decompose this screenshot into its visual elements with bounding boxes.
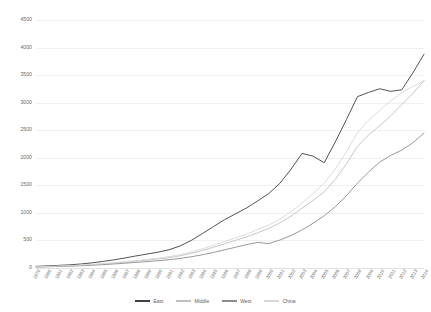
x-axis-tick-label: 2002 [288,269,297,280]
x-axis-tick-label: 2013 [410,269,419,280]
legend-item-east[interactable]: East [135,299,163,304]
series-line-west [36,133,424,267]
series-line-middle [36,81,424,267]
line-chart: 050010001500200025003000350040004500 197… [0,0,431,312]
legend-label: West [240,299,251,304]
x-axis-tick-label: 1992 [177,269,186,280]
legend-label: China [282,299,295,304]
x-axis-tick-label: 1984 [88,269,97,280]
x-axis-tick-label: 1982 [66,269,75,280]
y-axis-tick-label: 3500 [20,73,32,78]
legend-label: East [153,299,163,304]
x-axis-tick-label: 1989 [144,269,153,280]
series-line-east [36,54,424,266]
x-axis-tick-label: 2011 [388,269,397,280]
legend-item-china[interactable]: China [264,299,295,304]
legend-swatch-icon [135,300,150,301]
x-axis-tick-label: 1990 [155,269,164,280]
x-axis-tick-label: 1981 [55,269,64,280]
y-axis-tick-label: 2000 [20,155,32,160]
x-axis-tick-label: 1998 [244,269,253,280]
legend-label: Middle [194,299,209,304]
y-axis-tick-label: 500 [23,238,32,243]
legend-swatch-icon [176,300,191,301]
plot-area [36,20,424,268]
x-axis-tick-label: 2000 [266,269,275,280]
x-axis-tick-label: 1980 [44,269,53,280]
x-axis: 1979198019811982198319841985198619871988… [36,269,424,295]
x-axis-tick-label: 1995 [210,269,219,280]
y-axis-tick-label: 0 [29,265,32,270]
y-axis-tick-label: 4500 [20,17,32,22]
x-axis-tick-label: 1997 [232,269,241,280]
y-axis-tick-label: 1000 [20,210,32,215]
x-axis-tick-label: 2012 [399,269,408,280]
x-axis-tick-label: 2004 [310,269,319,280]
x-axis-tick-label: 2006 [332,269,341,280]
x-axis-tick-label: 1996 [221,269,230,280]
chart-legend: EastMiddleWestChina [0,294,431,308]
x-axis-tick-label: 1999 [255,269,264,280]
y-axis: 050010001500200025003000350040004500 [0,20,32,268]
y-axis-tick-label: 4000 [20,45,32,50]
legend-item-middle[interactable]: Middle [176,299,209,304]
legend-item-west[interactable]: West [222,299,251,304]
x-axis-tick-label: 1983 [77,269,86,280]
x-axis-tick-label: 2001 [277,269,286,280]
y-axis-tick-label: 1500 [20,183,32,188]
x-axis-tick-label: 1979 [33,269,42,280]
y-axis-tick-label: 2500 [20,128,32,133]
series-line-china [36,81,424,267]
legend-swatch-icon [222,300,237,301]
x-axis-tick-label: 2014 [421,269,430,280]
x-axis-tick-label: 1985 [99,269,108,280]
x-axis-tick-label: 1987 [122,269,131,280]
x-axis-tick-label: 2010 [377,269,386,280]
x-axis-tick-label: 2009 [365,269,374,280]
x-axis-tick-label: 1986 [110,269,119,280]
x-axis-tick-label: 1991 [166,269,175,280]
x-axis-tick-label: 2008 [354,269,363,280]
x-axis-tick-label: 1988 [133,269,142,280]
x-axis-tick-label: 1994 [199,269,208,280]
x-axis-tick-label: 2007 [343,269,352,280]
y-axis-tick-label: 3000 [20,100,32,105]
x-axis-tick-label: 2003 [299,269,308,280]
legend-swatch-icon [264,300,279,301]
x-axis-tick-label: 1993 [188,269,197,280]
series-lines [36,20,424,268]
x-axis-tick-label: 2005 [321,269,330,280]
